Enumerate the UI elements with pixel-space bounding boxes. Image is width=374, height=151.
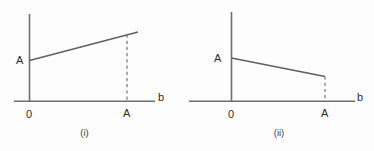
panel-ii: A 0 A b (ii) <box>189 12 363 138</box>
two-panel-line-figure: A 0 A b (i) A 0 A b (ii) <box>0 0 374 151</box>
panel-i-x-axis-label: b <box>158 91 164 103</box>
panel-i-origin-label: 0 <box>26 108 32 120</box>
panel-i-data-line <box>30 32 139 61</box>
panel-ii-origin-label: 0 <box>228 108 234 120</box>
panel-i-x-tick-label: A <box>123 107 131 119</box>
panel-i: A 0 A b (i) <box>14 14 164 138</box>
panel-ii-data-line <box>232 58 326 77</box>
panel-ii-caption: (ii) <box>274 127 285 138</box>
panel-i-caption: (i) <box>80 127 88 138</box>
panel-ii-x-axis-label: b <box>357 91 363 103</box>
panel-ii-x-tick-label: A <box>321 107 329 119</box>
figure-container: A 0 A b (i) A 0 A b (ii) <box>0 0 374 151</box>
panel-i-y-value-label: A <box>16 54 24 66</box>
panel-ii-y-value-label: A <box>214 52 222 64</box>
